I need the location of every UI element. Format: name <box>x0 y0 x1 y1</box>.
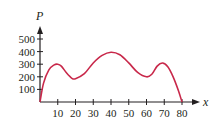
x-tick-label: 80 <box>177 107 189 119</box>
line-chart: 1020304050607080 100200300400500 P x <box>0 0 219 125</box>
x-tick-label: 60 <box>141 107 153 119</box>
y-tick-label: 400 <box>19 46 36 58</box>
y-tick-label: 100 <box>19 83 36 95</box>
x-tick-label: 50 <box>123 107 135 119</box>
x-tick-label: 70 <box>159 107 171 119</box>
x-axis-arrow-icon <box>192 99 200 105</box>
x-axis-label: x <box>202 95 209 109</box>
x-tick-label: 10 <box>52 107 64 119</box>
x-tick-label: 30 <box>88 107 100 119</box>
y-tick-label: 500 <box>19 33 36 45</box>
x-tick-label: 20 <box>70 107 82 119</box>
y-axis-arrow-icon <box>37 26 43 34</box>
y-tick-label: 300 <box>19 58 36 70</box>
curve-line <box>40 52 182 102</box>
y-ticks: 100200300400500 <box>19 33 44 95</box>
y-axis-label: P <box>35 9 44 23</box>
x-tick-label: 40 <box>106 107 118 119</box>
y-tick-label: 200 <box>19 71 36 83</box>
